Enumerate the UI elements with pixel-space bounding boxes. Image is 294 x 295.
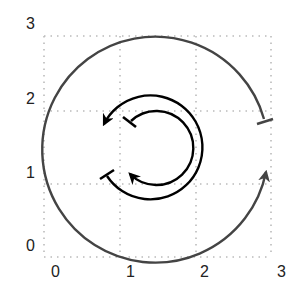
diagram-canvas: 3 2 1 0 0 1 2 3	[0, 0, 294, 295]
outer-arc	[42, 37, 273, 263]
x-tick-0: 0	[51, 263, 60, 280]
y-tick-2: 2	[26, 90, 35, 107]
x-tick-2: 2	[200, 263, 209, 280]
y-tick-3: 3	[26, 15, 35, 32]
y-axis-labels: 3 2 1 0	[26, 15, 35, 254]
x-tick-3: 3	[277, 263, 286, 280]
x-tick-1: 1	[126, 263, 135, 280]
y-tick-1: 1	[26, 164, 35, 181]
grid	[44, 36, 271, 257]
x-axis-labels: 0 1 2 3	[51, 263, 286, 280]
y-tick-0: 0	[26, 237, 35, 254]
inner-arc	[123, 111, 193, 185]
